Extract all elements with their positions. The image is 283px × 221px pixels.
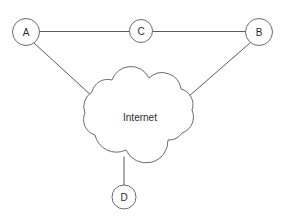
network-diagram: Internet A C B D	[0, 0, 283, 221]
node-a[interactable]: A	[13, 19, 40, 46]
link-a-to-internet	[34, 43, 93, 97]
node-b[interactable]: B	[246, 19, 273, 46]
node-b-label: B	[256, 27, 263, 38]
link-b-to-internet	[188, 43, 250, 97]
node-c-label: C	[137, 26, 144, 37]
network-diagram-canvas: Internet A C B D	[0, 0, 283, 221]
node-c[interactable]: C	[130, 20, 153, 43]
cloud-label: Internet	[123, 112, 157, 123]
node-d-label: D	[120, 192, 127, 203]
node-a-label: A	[23, 27, 30, 38]
internet-cloud: Internet	[84, 67, 194, 163]
node-d[interactable]: D	[112, 185, 136, 209]
